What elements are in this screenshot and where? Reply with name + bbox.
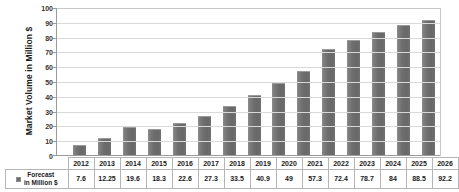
gridline xyxy=(57,82,440,83)
table-cell-value: 27.3 xyxy=(198,170,224,189)
legend-spacer-cell xyxy=(6,158,69,170)
legend-label-line2: in Million $ xyxy=(24,179,58,186)
y-axis-tick-label: 90 xyxy=(45,19,53,26)
plot-area: 0102030405060708090100 xyxy=(36,8,441,156)
gridline xyxy=(57,155,440,156)
table-cell-value: 19.6 xyxy=(120,170,146,189)
y-axis-tick-label: 10 xyxy=(45,138,53,145)
bar[interactable] xyxy=(198,116,211,156)
table-row-years: 2012201320142015201620172018201920202021… xyxy=(6,158,459,170)
gridline xyxy=(57,8,440,9)
y-axis-tick-mark xyxy=(53,112,56,113)
gridline xyxy=(57,97,440,98)
data-table: 2012201320142015201620172018201920202021… xyxy=(5,157,459,189)
y-axis-tick-mark xyxy=(53,141,56,142)
table-cell-value: 72.4 xyxy=(328,170,354,189)
bar[interactable] xyxy=(422,20,435,156)
legend-cell: Forecast in Million $ xyxy=(6,170,69,189)
y-axis-tick-mark xyxy=(53,8,56,9)
table-cell-value: 22.6 xyxy=(172,170,198,189)
y-axis-tick-label: 60 xyxy=(45,64,53,71)
y-axis-tick-mark xyxy=(53,52,56,53)
y-axis-tick-label: 70 xyxy=(45,49,53,56)
bar[interactable] xyxy=(397,25,410,156)
table-header-year: 2026 xyxy=(432,158,458,170)
table-cell-value: 40.9 xyxy=(250,170,276,189)
y-axis-tick-label: 80 xyxy=(45,34,53,41)
legend-label: Forecast in Million $ xyxy=(24,171,58,187)
gridline xyxy=(57,112,440,113)
legend-swatch-icon xyxy=(16,177,21,182)
table-header-year: 2022 xyxy=(328,158,354,170)
table-header-year: 2024 xyxy=(380,158,406,170)
bar[interactable] xyxy=(173,123,186,156)
table-header-year: 2013 xyxy=(94,158,120,170)
y-axis-tick-mark xyxy=(53,67,56,68)
bar[interactable] xyxy=(223,106,236,156)
table-cell-value: 84 xyxy=(380,170,406,189)
bar[interactable] xyxy=(272,83,285,156)
y-axis-tick-mark xyxy=(53,38,56,39)
gridline xyxy=(57,67,440,68)
y-axis-tick-mark xyxy=(53,82,56,83)
y-axis-tick-mark xyxy=(53,155,56,156)
table-cell-value: 49 xyxy=(276,170,302,189)
gridline xyxy=(57,38,440,39)
bar[interactable] xyxy=(148,129,161,156)
table-row-values: Forecast in Million $ 7.612.2519.618.322… xyxy=(6,170,459,189)
y-axis-tick-label: 30 xyxy=(45,108,53,115)
table-cell-value: 78.7 xyxy=(354,170,380,189)
y-axis-tick-mark xyxy=(53,97,56,98)
y-axis-tick-mark xyxy=(53,23,56,24)
table-cell-value: 12.25 xyxy=(94,170,120,189)
table-header-year: 2015 xyxy=(146,158,172,170)
y-axis-tick-mark xyxy=(53,126,56,127)
table-header-year: 2021 xyxy=(302,158,328,170)
gridline xyxy=(57,52,440,53)
table-header-year: 2014 xyxy=(120,158,146,170)
table-header-year: 2019 xyxy=(250,158,276,170)
plot-canvas xyxy=(57,8,441,156)
table-header-year: 2016 xyxy=(172,158,198,170)
y-axis-title: Market Volume in Million $ xyxy=(22,8,36,153)
table-cell-value: 18.3 xyxy=(146,170,172,189)
y-axis-tick-label: 100 xyxy=(41,5,53,12)
y-axis-tick-label: 50 xyxy=(45,79,53,86)
bar[interactable] xyxy=(322,49,335,156)
table-cell-value: 88.5 xyxy=(406,170,432,189)
table-header-year: 2017 xyxy=(198,158,224,170)
table-cell-value: 7.6 xyxy=(68,170,94,189)
legend-label-line1: Forecast xyxy=(27,171,54,178)
table-header-year: 2012 xyxy=(68,158,94,170)
table-header-year: 2023 xyxy=(354,158,380,170)
y-axis-tick-label: 40 xyxy=(45,93,53,100)
gridline xyxy=(57,141,440,142)
y-axis-tick-labels: 0102030405060708090100 xyxy=(36,8,54,156)
table-cell-value: 92.2 xyxy=(432,170,458,189)
table-header-year: 2018 xyxy=(224,158,250,170)
table-header-year: 2025 xyxy=(406,158,432,170)
gridline xyxy=(57,126,440,127)
table-header-year: 2020 xyxy=(276,158,302,170)
bar[interactable] xyxy=(372,32,385,156)
y-axis-title-text: Market Volume in Million $ xyxy=(24,26,34,135)
table-cell-value: 57.3 xyxy=(302,170,328,189)
bar[interactable] xyxy=(297,71,310,156)
gridline xyxy=(57,23,440,24)
table-cell-value: 33.5 xyxy=(224,170,250,189)
y-axis-tick-label: 20 xyxy=(45,123,53,130)
